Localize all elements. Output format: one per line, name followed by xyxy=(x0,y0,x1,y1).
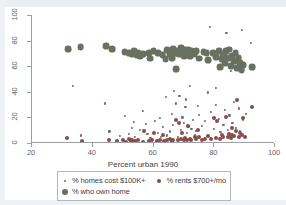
x-tick-label-80: 80 xyxy=(202,148,224,157)
data-point xyxy=(150,138,154,142)
legend: % homes cost $100K+ % rents $700+/mo % w… xyxy=(57,171,231,201)
data-point xyxy=(204,120,206,122)
legend-key-wrap-own-home xyxy=(62,189,72,195)
data-point xyxy=(141,140,145,142)
data-point xyxy=(172,124,174,126)
legend-key-wrap-rents xyxy=(157,179,167,183)
legend-label-homes-cost: % homes cost $100K+ xyxy=(72,176,145,185)
data-point xyxy=(139,129,141,131)
legend-row-2: % who own home xyxy=(62,186,226,197)
data-point xyxy=(157,132,159,134)
data-point xyxy=(243,135,247,139)
paper-edge-top xyxy=(0,0,286,7)
data-point xyxy=(190,128,192,130)
x-tick-label-100: 100 xyxy=(263,148,285,157)
legend-entry-rents[interactable]: % rents $700+/mo xyxy=(157,176,226,185)
data-point xyxy=(124,115,126,117)
data-point xyxy=(173,65,180,72)
data-point xyxy=(158,138,162,142)
data-point xyxy=(213,128,215,130)
data-point xyxy=(154,120,156,122)
data-point xyxy=(142,129,146,133)
data-point xyxy=(161,133,165,137)
data-point xyxy=(109,46,116,53)
legend-entry-homes-cost[interactable]: % homes cost $100K+ xyxy=(62,176,157,185)
data-point xyxy=(184,105,186,107)
x-axis-title: Percent urban 1990 xyxy=(0,160,286,169)
data-point xyxy=(171,112,173,114)
data-point xyxy=(215,119,219,123)
data-point xyxy=(207,91,209,93)
data-point xyxy=(128,133,130,135)
legend-entry-own-home[interactable]: % who own home xyxy=(62,187,166,196)
data-point xyxy=(166,134,168,136)
x-tick-mark xyxy=(274,143,275,147)
data-point xyxy=(193,47,200,54)
data-point xyxy=(232,134,236,138)
data-point xyxy=(107,138,111,142)
y-tick-label-100: 100 xyxy=(10,5,19,25)
data-point xyxy=(168,54,175,61)
data-point xyxy=(183,121,185,123)
data-point xyxy=(224,115,228,119)
data-point xyxy=(214,136,218,140)
data-point xyxy=(203,50,210,57)
data-point xyxy=(234,127,236,129)
y-tick-label-20: 20 xyxy=(10,107,19,127)
legend-marker-homes-cost xyxy=(64,180,66,182)
data-point xyxy=(196,55,203,62)
legend-marker-own-home xyxy=(62,189,68,195)
data-point xyxy=(119,135,121,137)
legend-key-wrap-homes-cost xyxy=(62,180,72,182)
data-point xyxy=(186,124,190,128)
data-point xyxy=(228,114,230,116)
data-point xyxy=(224,109,226,111)
data-point xyxy=(245,112,247,114)
data-point xyxy=(237,107,239,109)
legend-label-rents: % rents $700+/mo xyxy=(167,176,226,185)
data-point xyxy=(177,121,181,125)
data-point xyxy=(240,29,242,31)
data-point xyxy=(147,55,154,62)
data-point xyxy=(225,32,227,34)
x-tick-mark xyxy=(153,143,154,147)
data-point xyxy=(196,105,198,107)
data-point xyxy=(222,124,224,126)
data-point xyxy=(131,127,133,129)
data-point xyxy=(217,63,224,70)
data-point xyxy=(181,116,183,118)
data-point xyxy=(65,136,69,140)
data-point xyxy=(205,57,212,64)
data-point xyxy=(72,85,74,87)
data-point xyxy=(146,133,148,135)
x-tick-mark xyxy=(31,143,32,147)
data-point xyxy=(173,89,175,91)
x-tick-label-20: 20 xyxy=(20,148,42,157)
data-point xyxy=(152,131,156,135)
data-point xyxy=(134,136,136,138)
y-tick-label-0: 0 xyxy=(10,133,19,153)
x-tick-label-60: 60 xyxy=(142,148,164,157)
data-point xyxy=(230,126,234,130)
legend-marker-rents xyxy=(157,179,161,183)
data-point xyxy=(227,129,229,131)
data-point xyxy=(201,125,203,127)
data-point xyxy=(210,111,212,113)
paper-edge-left xyxy=(0,0,5,205)
data-point xyxy=(65,46,72,53)
data-point xyxy=(178,95,180,97)
data-point xyxy=(108,130,110,132)
data-point xyxy=(235,98,239,102)
plot-area xyxy=(31,15,274,143)
data-point xyxy=(80,139,84,142)
data-point xyxy=(250,105,254,109)
data-point xyxy=(234,129,238,133)
y-tick-label-60: 60 xyxy=(10,56,19,76)
data-point xyxy=(209,137,213,141)
data-point xyxy=(192,119,194,121)
x-tick-mark xyxy=(92,143,93,147)
data-point xyxy=(104,102,106,104)
data-point xyxy=(80,134,82,136)
data-point xyxy=(136,138,140,142)
data-point xyxy=(169,130,171,132)
